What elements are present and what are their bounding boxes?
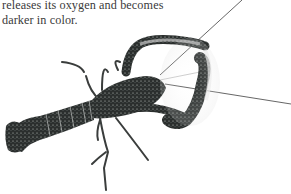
lobster-image [0, 0, 291, 194]
document-page: releases its oxygen and becomes darker i… [0, 0, 291, 194]
